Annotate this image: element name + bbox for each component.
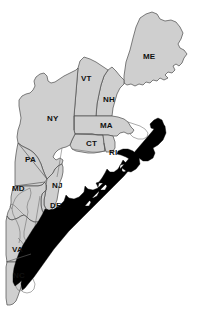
state-label-de: DE <box>50 202 62 210</box>
state-label-nj: NJ <box>52 182 63 190</box>
state-label-ct: CT <box>86 140 97 148</box>
state-label-md: MD <box>12 185 25 193</box>
state-label-me: ME <box>143 53 155 61</box>
map-container: ME VT NH NY MA CT RI PA NJ MD DE VA NC <box>0 0 199 313</box>
state-label-nh: NH <box>103 96 115 104</box>
state-label-va: VA <box>12 246 23 254</box>
state-label-pa: PA <box>25 156 36 164</box>
state-label-ma: MA <box>100 122 113 130</box>
state-label-vt: VT <box>81 75 92 83</box>
state-label-ny: NY <box>47 115 59 123</box>
state-label-ri: RI <box>109 149 117 157</box>
state-shape-me[interactable] <box>124 12 187 86</box>
state-label-nc: NC <box>13 272 25 280</box>
